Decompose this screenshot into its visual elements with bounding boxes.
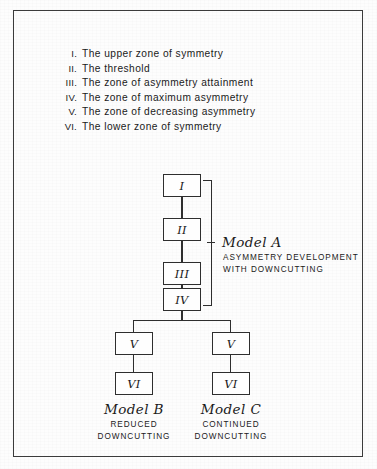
model-c-subtitle-line1: CONTINUED [181,419,281,431]
model-a-title: Model A [222,234,282,250]
model-a-bracket-tick [207,242,215,243]
node-left-zone-v: V [115,332,153,355]
legend-numeral: III. [56,77,77,88]
connector-i-to-ii [181,196,182,218]
figure-page: I. The upper zone of symmetry II. The th… [0,0,377,469]
legend-item: I. The upper zone of symmetry [56,48,306,63]
node-zone-iv: IV [163,288,201,311]
node-zone-ii: II [163,218,201,241]
legend-numeral: I. [56,48,77,59]
node-left-zone-vi: VI [115,372,153,395]
connector-right-v-to-vi [230,354,231,372]
model-b-subtitle-line1: REDUCED [84,419,184,431]
legend-item: V. The zone of decreasing asymmetry [56,106,306,121]
legend-numeral: II. [56,63,77,74]
model-b-subtitle-line2: DOWNCUTTING [84,431,184,443]
node-right-zone-v: V [212,332,250,355]
model-a-subtitle-line1: ASYMMETRY DEVELOPMENT [223,252,359,264]
legend-item: VI. The lower zone of symmetry [56,121,306,136]
model-c-subtitle-line2: DOWNCUTTING [181,431,281,443]
model-a-subtitle-line2: WITH DOWNCUTTING [223,264,324,276]
legend-label: The zone of decreasing asymmetry [77,106,256,117]
legend-label: The zone of maximum asymmetry [77,92,248,103]
model-b-title: Model B [84,401,184,417]
legend-label: The lower zone of symmetry [77,121,222,132]
node-right-zone-vi: VI [212,372,250,395]
legend-label: The upper zone of symmetry [77,48,223,59]
node-zone-iii: III [163,262,201,285]
connector-split-to-right-v [230,320,231,332]
legend-item: II. The threshold [56,63,306,78]
connector-split-to-left-v [133,320,134,332]
zone-legend: I. The upper zone of symmetry II. The th… [56,48,306,136]
node-zone-i: I [163,174,201,197]
legend-item: IV. The zone of maximum asymmetry [56,92,306,107]
legend-numeral: V. [56,106,77,117]
connector-ii-to-iii [181,240,182,262]
legend-item: III. The zone of asymmetry attainment [56,77,306,92]
legend-label: The threshold [77,63,150,74]
connector-left-v-to-vi [133,354,134,372]
model-c-title: Model C [181,401,281,417]
legend-numeral: IV. [56,92,77,103]
legend-label: The zone of asymmetry attainment [77,77,253,88]
legend-numeral: VI. [56,121,77,132]
branch-split-bar [133,320,231,321]
